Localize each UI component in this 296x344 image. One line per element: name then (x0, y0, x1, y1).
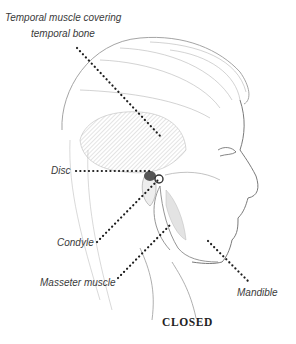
leader-condyle (97, 178, 160, 242)
disc-joint (144, 171, 156, 181)
label-temporal-line1: Temporal muscle covering (5, 12, 121, 24)
caption-closed: CLOSED (162, 316, 213, 328)
face-profile (192, 100, 258, 264)
zygomatic-arch (165, 172, 220, 180)
label-masseter: Masseter muscle (40, 277, 116, 289)
eye (218, 148, 236, 156)
mandible-bone (154, 186, 218, 262)
label-condyle: Condyle (57, 237, 94, 249)
label-disc: Disc (51, 165, 70, 177)
masseter-muscle-shape (166, 190, 186, 240)
jaw-anatomy-diagram: Temporal muscle covering temporal bone D… (0, 0, 296, 344)
label-mandible: Mandible (237, 287, 278, 299)
condyle-head (155, 175, 163, 183)
label-temporal-line2: temporal bone (31, 28, 95, 40)
neck-front (140, 248, 196, 320)
temporal-muscle (80, 112, 186, 173)
leader-masseter (118, 223, 172, 278)
hair (80, 42, 246, 118)
